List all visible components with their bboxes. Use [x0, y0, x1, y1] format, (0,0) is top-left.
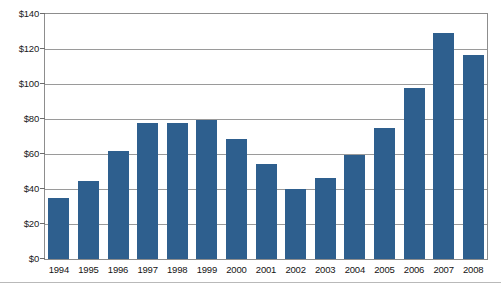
x-axis-tick-label: 2004 [340, 263, 370, 276]
x-axis-tick-label: 2005 [370, 263, 400, 276]
bars-layer [44, 13, 488, 260]
y-axis-tickmark [40, 223, 45, 224]
y-axis-tickmark [40, 153, 45, 154]
y-axis-tick-label: $0 [3, 254, 39, 264]
x-axis-tick-label: 2003 [310, 263, 340, 276]
bar [285, 189, 306, 259]
y-axis-tickmark [40, 48, 45, 49]
y-axis-tick-label: $80 [3, 114, 39, 124]
x-axis-tick-label: 2000 [222, 263, 252, 276]
y-axis-tickmark [40, 258, 45, 259]
bar [108, 151, 129, 259]
bar [137, 123, 158, 260]
x-axis-tick-label: 1996 [103, 263, 133, 276]
bar [196, 120, 217, 259]
x-axis-tick-label: 2007 [429, 263, 459, 276]
footer-divider [0, 282, 501, 283]
y-axis-tick-label: $140 [3, 9, 39, 19]
y-axis-tick-label: $100 [3, 79, 39, 89]
y-axis-tick-label: $60 [3, 149, 39, 159]
x-axis-tick-label: 1999 [192, 263, 222, 276]
y-axis-tickmark [40, 13, 45, 14]
bar [374, 128, 395, 259]
y-axis-tick-label: $40 [3, 184, 39, 194]
bar [48, 198, 69, 259]
bar [78, 181, 99, 259]
bar [256, 164, 277, 259]
x-axis-tick-label: 2008 [458, 263, 488, 276]
y-axis-tickmark [40, 188, 45, 189]
bar [315, 178, 336, 259]
bar [463, 55, 484, 259]
bar [167, 123, 188, 259]
bar [344, 155, 365, 259]
x-axis-tick-label: 1998 [162, 263, 192, 276]
x-axis: 1994199519961997199819992000200120022003… [44, 263, 488, 279]
y-axis-tick-label: $20 [3, 219, 39, 229]
x-axis-tick-label: 2002 [281, 263, 311, 276]
x-axis-tick-label: 2006 [399, 263, 429, 276]
y-axis-tickmark [40, 83, 45, 84]
bar [404, 88, 425, 259]
x-axis-tick-label: 1997 [133, 263, 163, 276]
bar-chart-figure: 1994199519961997199819992000200120022003… [0, 0, 501, 295]
bar [226, 139, 247, 259]
y-axis-tickmark [40, 118, 45, 119]
bar [433, 33, 454, 259]
x-axis-tick-label: 2001 [251, 263, 281, 276]
y-axis-tick-label: $120 [3, 44, 39, 54]
x-axis-tick-label: 1994 [44, 263, 74, 276]
x-axis-tick-label: 1995 [74, 263, 104, 276]
